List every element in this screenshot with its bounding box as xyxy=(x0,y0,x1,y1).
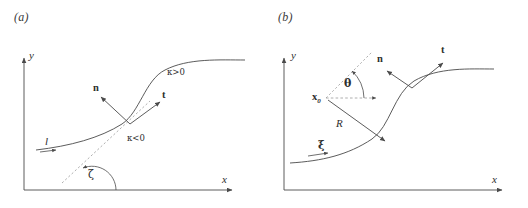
arclength-arrow-a xyxy=(40,150,56,152)
tangent-vector-label-a: t xyxy=(162,90,166,101)
normal-vector-b xyxy=(387,71,412,88)
arclength-label-b: ξ xyxy=(318,140,325,151)
tangent-vector-label-b: t xyxy=(441,45,445,56)
panel-b: (b) xyxy=(264,0,528,208)
polar-angle-label-b: θ xyxy=(344,78,351,89)
normal-vector-label-a: n xyxy=(93,83,99,94)
tangent-angle-label-a: ζ xyxy=(88,169,94,180)
reference-point-label-b: x0 xyxy=(312,92,321,105)
reference-ray-dashed-b xyxy=(326,52,372,98)
arclength-arrow-b xyxy=(308,153,328,156)
x-axis-label-a: x xyxy=(222,174,227,185)
normal-vector-a xyxy=(101,97,130,124)
normal-vector-label-b: n xyxy=(377,54,383,65)
reference-point-subscript: 0 xyxy=(317,97,321,105)
panel-b-graphics xyxy=(264,0,528,208)
tangent-vector-b xyxy=(412,63,443,88)
radius-label-b: R xyxy=(336,118,343,129)
x-axis-label-b: x xyxy=(492,174,497,185)
arclength-label-a: l xyxy=(45,136,48,147)
tangent-vector-a xyxy=(130,102,160,124)
figure-root: (a) xyxy=(0,0,528,208)
curvature-negative-label-a: κ<0 xyxy=(127,134,145,143)
y-axis-label-a: y xyxy=(29,50,34,61)
curvature-positive-label-a: κ>0 xyxy=(167,68,185,77)
polar-angle-arc-b xyxy=(352,71,364,98)
panel-a: (a) xyxy=(0,0,264,208)
y-axis-label-b: y xyxy=(291,50,296,61)
